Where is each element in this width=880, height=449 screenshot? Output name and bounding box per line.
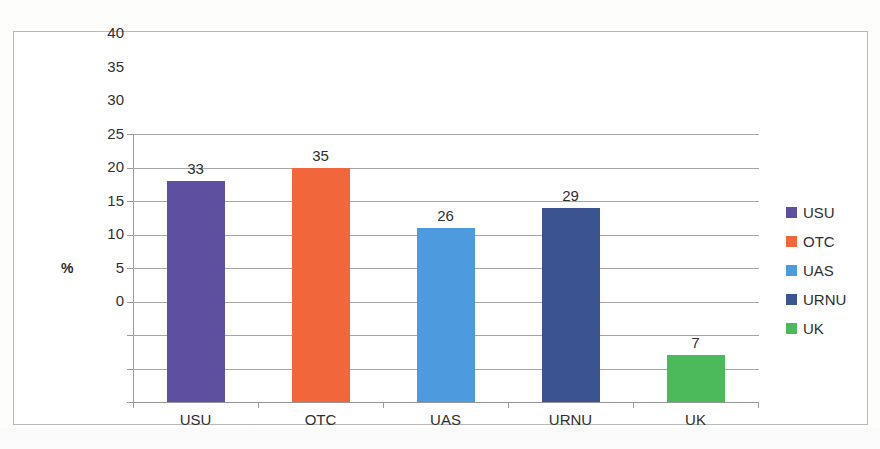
bar-value-uas: 26 [416,207,476,224]
x-axis-tick-1 [258,402,259,408]
legend-swatch-icon-urnu [786,294,797,305]
chart-legend: USU OTC UAS URNU UK [786,198,866,343]
legend-item-otc[interactable]: OTC [786,227,866,256]
y-tick-label-35: 35 [84,57,124,74]
legend-label-otc: OTC [803,233,835,250]
legend-label-uk: UK [803,320,824,337]
gridline-35 [133,168,759,169]
y-tick-label-25: 25 [84,124,124,141]
x-axis-tick-3 [508,402,509,408]
y-tick-label-20: 20 [84,158,124,175]
x-axis-label-usu: USU [151,411,241,428]
bar-urnu[interactable] [542,208,600,402]
y-tick-label-0: 0 [84,292,124,309]
gridline-baseline-0 [133,402,759,403]
legend-swatch-icon-uas [786,265,797,276]
bar-value-otc: 35 [291,147,351,164]
gridline-40 [133,134,759,135]
bar-uk[interactable] [667,355,725,402]
bar-uas[interactable] [417,228,475,402]
legend-label-uas: UAS [803,262,834,279]
bar-value-uk: 7 [666,334,726,351]
bar-usu[interactable] [167,181,225,402]
x-axis-label-uas: UAS [401,411,491,428]
bar-value-urnu: 29 [541,187,601,204]
y-tick-label-30: 30 [84,91,124,108]
legend-item-urnu[interactable]: URNU [786,285,866,314]
x-axis-tick-4 [633,402,634,408]
y-tick-label-10: 10 [84,225,124,242]
legend-swatch-icon-otc [786,236,797,247]
gridline-30 [133,201,759,202]
x-axis-tick-5 [758,402,759,408]
x-axis-tick-2 [383,402,384,408]
legend-swatch-icon-usu [786,207,797,218]
legend-item-uas[interactable]: UAS [786,256,866,285]
y-tick-label-5: 5 [84,258,124,275]
legend-label-urnu: URNU [803,291,846,308]
bar-otc[interactable] [292,168,350,403]
plot-area [133,134,759,402]
legend-swatch-icon-uk [786,323,797,334]
x-axis-tick-0 [133,402,134,408]
x-axis-label-otc: OTC [276,411,366,428]
page-background: 40 35 30 25 20 15 10 5 0 % [0,0,880,449]
chart-frame: 40 35 30 25 20 15 10 5 0 % [13,31,868,425]
legend-item-usu[interactable]: USU [786,198,866,227]
y-axis-title: % [61,260,73,276]
scan-edge-shadow [0,428,880,449]
y-tick-label-15: 15 [84,191,124,208]
x-axis-label-urnu: URNU [526,411,616,428]
x-axis-label-uk: UK [651,411,741,428]
y-tick-label-40: 40 [84,24,124,41]
legend-item-uk[interactable]: UK [786,314,866,343]
bar-value-usu: 33 [166,160,226,177]
legend-label-usu: USU [803,204,835,221]
y-axis-tick-labels: 40 35 30 25 20 15 10 5 0 [74,32,124,424]
